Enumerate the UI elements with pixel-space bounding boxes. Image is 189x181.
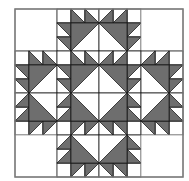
corner-square bbox=[127, 9, 141, 23]
quilt-block-r0-c1 bbox=[57, 9, 99, 51]
quilt-block-r1-c3 bbox=[141, 51, 183, 93]
corner-square bbox=[127, 51, 141, 65]
quilt-block-r1-c0 bbox=[15, 51, 57, 93]
corner-square bbox=[127, 121, 141, 135]
quilt-diagram bbox=[0, 0, 189, 181]
corner-square bbox=[169, 121, 183, 135]
corner-square bbox=[57, 51, 71, 65]
corner-square bbox=[57, 121, 71, 135]
empty-block bbox=[141, 135, 183, 177]
empty-block bbox=[15, 135, 57, 177]
quilt-block-r2-c0 bbox=[15, 93, 57, 135]
corner-square bbox=[127, 163, 141, 177]
quilt-block-r0-c2 bbox=[99, 9, 141, 51]
quilt-block-r1-c1 bbox=[57, 51, 99, 93]
corner-square bbox=[15, 121, 29, 135]
quilt-block-r1-c2 bbox=[99, 51, 141, 93]
corner-square bbox=[57, 9, 71, 23]
quilt-block-r3-c3 bbox=[141, 135, 183, 177]
quilt-block-r3-c0 bbox=[15, 135, 57, 177]
quilt-blocks bbox=[15, 9, 183, 177]
corner-square bbox=[169, 51, 183, 65]
quilt-block-r0-c3 bbox=[141, 9, 183, 51]
corner-square bbox=[15, 51, 29, 65]
quilt-block-r0-c0 bbox=[15, 9, 57, 51]
quilt-block-r2-c3 bbox=[141, 93, 183, 135]
empty-block bbox=[141, 9, 183, 51]
quilt-block-r2-c1 bbox=[57, 93, 99, 135]
quilt-block-r3-c2 bbox=[99, 135, 141, 177]
quilt-block-r3-c1 bbox=[57, 135, 99, 177]
quilt-block-r2-c2 bbox=[99, 93, 141, 135]
corner-square bbox=[57, 163, 71, 177]
empty-block bbox=[15, 9, 57, 51]
